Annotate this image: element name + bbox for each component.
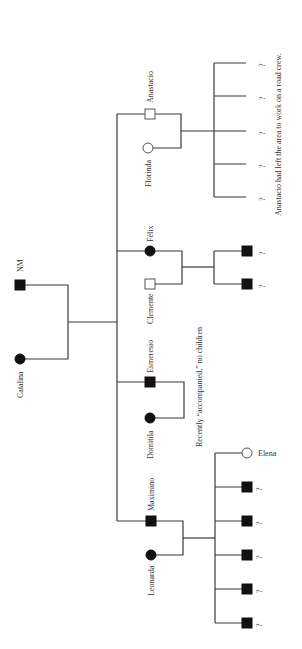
- children-bracket-felix: [214, 251, 246, 284]
- child-label: ?: [255, 521, 264, 525]
- family-felix: Félix Clemente ? ?: [145, 226, 267, 324]
- maximino-label: Maximino: [147, 478, 156, 511]
- child-label: ?: [255, 487, 264, 491]
- felix-child-square: [242, 246, 252, 256]
- esmeresio-square: [145, 377, 155, 387]
- nm-label: NM: [16, 259, 25, 272]
- child-label: ?: [258, 131, 267, 135]
- catalina-label: Catalina: [16, 371, 25, 398]
- elena-circle: [242, 448, 252, 458]
- maximino-square: [146, 516, 156, 526]
- marriage-line-gen1: [20, 285, 68, 359]
- child-label: ?: [255, 589, 264, 593]
- leonarda-label: Leonarda: [147, 565, 156, 596]
- child-label: ?: [255, 555, 264, 559]
- child-label: ?: [258, 284, 267, 288]
- anastacio-note: Anastacio had left the area to work on a…: [274, 53, 283, 216]
- anastacio-label: Anastacio: [146, 71, 155, 103]
- child-label: ?: [255, 623, 264, 627]
- child-label: ?: [258, 63, 267, 67]
- maximino-child-square: [242, 618, 252, 628]
- esmeresio-label: Esmeresio: [146, 340, 155, 373]
- family-esmeresio: Esmeresio Domitila Recently “accompanied…: [145, 327, 204, 459]
- florinda-circle: [143, 143, 153, 153]
- kinship-diagram: NM Catalina Anastacio Florinda ? ? ? ? ?…: [0, 0, 302, 649]
- children-bracket-maximino: [215, 453, 247, 623]
- child-label: ?: [258, 251, 267, 255]
- felix-circle: [145, 246, 155, 256]
- felix-child-square: [242, 279, 252, 289]
- leonarda-circle: [146, 550, 156, 560]
- nm-square: [15, 280, 25, 290]
- clemente-square: [145, 279, 155, 289]
- family-maximino: Maximino Leonarda Elena ? ? ? ? ?: [146, 448, 277, 628]
- maximino-child-square: [242, 584, 252, 594]
- maximino-child-square: [242, 482, 252, 492]
- catalina-circle: [15, 354, 25, 364]
- generation-1: NM Catalina: [15, 259, 117, 398]
- family-anastacio: Anastacio Florinda ? ? ? ? ? Anastacio h…: [143, 53, 283, 216]
- child-label: ?: [258, 164, 267, 168]
- anastacio-square: [145, 109, 155, 119]
- domitila-label: Domitila: [146, 430, 155, 459]
- child-label: ?: [258, 197, 267, 201]
- florinda-label: Florinda: [144, 159, 153, 187]
- maximino-child-square: [242, 516, 252, 526]
- child-label: ?: [258, 96, 267, 100]
- felix-label: Félix: [146, 226, 155, 242]
- clemente-label: Clemente: [146, 293, 155, 324]
- esmeresio-note: Recently “accompanied,” no children: [195, 327, 204, 447]
- maximino-child-square: [242, 550, 252, 560]
- elena-label: Elena: [258, 449, 277, 458]
- domitila-circle: [145, 413, 155, 423]
- children-bracket-anastacio: [214, 63, 246, 197]
